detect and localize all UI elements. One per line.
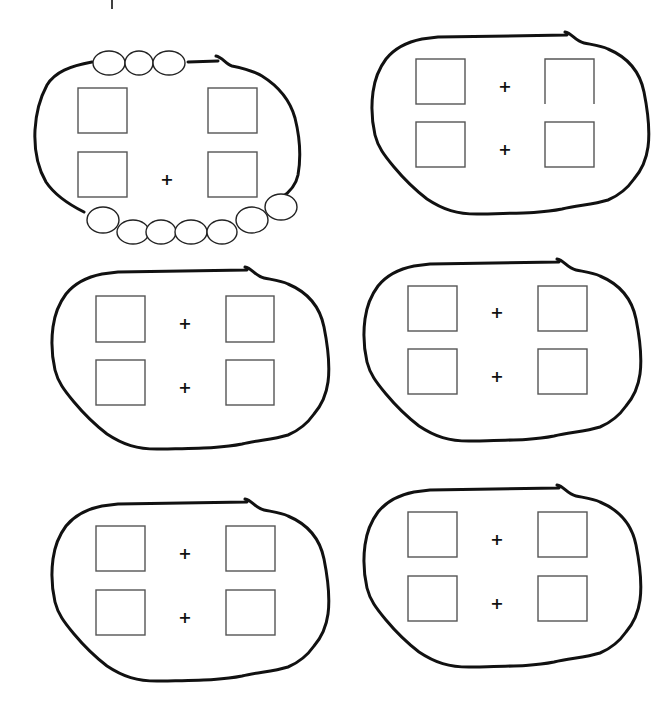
answer-box[interactable] bbox=[96, 590, 145, 635]
group-6: + + bbox=[364, 485, 641, 667]
answer-box[interactable] bbox=[226, 590, 275, 635]
answer-box[interactable] bbox=[226, 360, 274, 405]
plus-sign: + bbox=[178, 608, 191, 627]
bead bbox=[146, 220, 176, 244]
answer-box[interactable] bbox=[226, 526, 275, 571]
group-5: + + bbox=[52, 499, 329, 681]
group-3: + + bbox=[52, 267, 329, 449]
group-2: + + bbox=[372, 32, 649, 214]
plus-sign: + bbox=[498, 140, 511, 159]
bead bbox=[153, 51, 185, 75]
group-outline bbox=[52, 499, 329, 681]
answer-box[interactable] bbox=[408, 286, 457, 331]
bead bbox=[117, 220, 149, 244]
plus-sign: + bbox=[160, 170, 173, 189]
bead bbox=[87, 207, 119, 233]
answer-box[interactable] bbox=[408, 576, 457, 621]
bead bbox=[236, 207, 268, 233]
answer-box-open[interactable] bbox=[545, 59, 594, 104]
bead bbox=[207, 220, 237, 244]
bead bbox=[265, 194, 297, 220]
bead bbox=[125, 51, 153, 75]
answer-box[interactable] bbox=[78, 152, 127, 197]
worksheet-canvas: + + + + + + + + + bbox=[0, 0, 672, 714]
answer-box[interactable] bbox=[226, 296, 274, 342]
plus-sign: + bbox=[178, 544, 191, 563]
answer-box[interactable] bbox=[208, 88, 257, 133]
plus-sign: + bbox=[498, 77, 511, 96]
answer-box[interactable] bbox=[538, 286, 587, 331]
answer-box[interactable] bbox=[96, 360, 145, 405]
group-outline bbox=[372, 32, 649, 214]
answer-box[interactable] bbox=[408, 349, 457, 394]
group-outline bbox=[364, 259, 641, 441]
answer-box[interactable] bbox=[545, 122, 594, 167]
plus-sign: + bbox=[178, 378, 191, 397]
group-outline bbox=[364, 485, 641, 667]
answer-box[interactable] bbox=[416, 122, 465, 167]
answer-box[interactable] bbox=[96, 526, 145, 571]
answer-box[interactable] bbox=[416, 59, 465, 104]
plus-sign: + bbox=[490, 367, 503, 386]
group-outline bbox=[35, 56, 300, 212]
plus-sign: + bbox=[490, 303, 503, 322]
answer-box[interactable] bbox=[538, 512, 587, 557]
bead bbox=[175, 220, 207, 244]
plus-sign: + bbox=[490, 530, 503, 549]
answer-box[interactable] bbox=[538, 349, 587, 394]
answer-box[interactable] bbox=[96, 296, 145, 342]
bead bbox=[93, 51, 125, 75]
plus-sign: + bbox=[178, 314, 191, 333]
answer-box[interactable] bbox=[208, 152, 257, 197]
answer-box[interactable] bbox=[408, 512, 457, 557]
group-4: + + bbox=[364, 259, 641, 441]
group-outline bbox=[52, 267, 329, 449]
plus-sign: + bbox=[490, 594, 503, 613]
answer-box[interactable] bbox=[538, 576, 587, 621]
group-1: + bbox=[35, 51, 300, 244]
answer-box[interactable] bbox=[78, 88, 127, 133]
